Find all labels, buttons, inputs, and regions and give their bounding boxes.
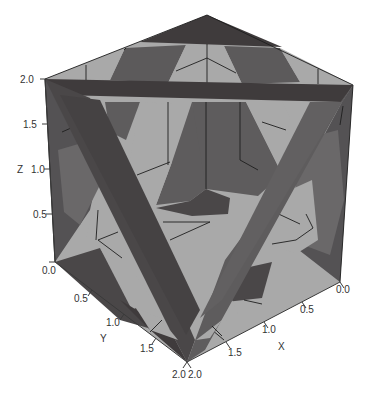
x-tick-1-5: 1.5 (228, 347, 242, 358)
y-tick-1-0: 1.0 (106, 317, 120, 328)
x-axis-title: X (278, 341, 285, 352)
x-tick-0-0: 0.0 (336, 284, 350, 295)
y-axis-title: Y (100, 333, 107, 344)
z-tick-2-0: 2.0 (20, 74, 34, 85)
x-tick-1-0: 1.0 (262, 324, 276, 335)
y-tick-0-5: 0.5 (74, 293, 88, 304)
z-tick-1-0: 1.0 (31, 164, 45, 175)
x-tick-0-5: 0.5 (300, 304, 314, 315)
z-tick-0-0: 0.0 (42, 265, 56, 276)
z-axis-title: Z (17, 164, 23, 175)
x-tick-2-0: 2.0 (188, 369, 202, 380)
y-tick-2-0: 2.0 (172, 369, 186, 380)
y-tick-1-5: 1.5 (140, 343, 154, 354)
surface-plot-3d: 2.0 1.5 1.0 0.5 0.0 Z 0.5 1.0 1.5 2.0 Y … (0, 0, 366, 396)
z-tick-0-5: 0.5 (33, 209, 47, 220)
top-face (45, 15, 353, 85)
z-tick-1-5: 1.5 (23, 119, 37, 130)
